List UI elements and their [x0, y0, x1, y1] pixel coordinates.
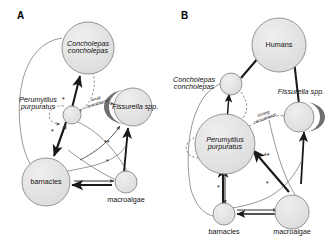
node-label-macroalgae: macroalgae — [266, 228, 318, 235]
node-label-fissurella: Fissurella spp. — [112, 103, 156, 110]
node-label-barnacles: barnacles — [21, 178, 71, 185]
node-label-concholepas: Concholepas concholepas — [58, 40, 118, 55]
asterisk-marker: * — [217, 184, 220, 191]
asterisk-marker: * — [106, 158, 109, 165]
asterisk-marker: * — [51, 128, 54, 135]
asterisk-marker: ** — [104, 139, 109, 146]
node-label-concholepas: Concholepas concholepas — [167, 76, 221, 91]
node-label-perumytilus: Perumytilus purpuratus — [197, 136, 253, 151]
asterisk-marker: ** — [264, 152, 269, 159]
node-label-perumytilus: Perumytilus purpuratus — [10, 96, 66, 111]
node-label-macroalgae: macroalgae — [100, 196, 152, 203]
panel-a: A — [0, 0, 164, 243]
node-label-fissurella: Fissurella spp. — [273, 88, 329, 95]
node-label-humans: Humans — [253, 41, 305, 48]
asterisk-marker: * — [266, 180, 269, 187]
figure-root: A — [0, 0, 329, 243]
asterisk-marker: * — [62, 96, 65, 103]
panel-b: B — [165, 0, 329, 243]
panel-a-graphics — [0, 0, 164, 243]
panel-b-graphics — [165, 0, 329, 243]
node-label-barnacles: barnacles — [199, 228, 249, 235]
